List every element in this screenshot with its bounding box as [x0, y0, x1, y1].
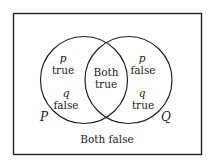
left-region-val2: false: [53, 99, 78, 111]
right-region-val1: false: [130, 64, 155, 76]
set-label-p: P: [39, 110, 49, 124]
left-region-val1: true: [52, 64, 74, 76]
set-label-q: Q: [161, 110, 171, 124]
right-region-val2: true: [132, 99, 154, 111]
right-region-var2: q: [139, 87, 146, 99]
left-region-var1: p: [60, 52, 67, 64]
venn-diagram: p true q false Both true p false q true …: [0, 0, 213, 164]
intersection-line2: true: [95, 78, 117, 90]
left-region-var2: q: [63, 87, 70, 99]
outside-region-label: Both false: [80, 133, 133, 145]
intersection-line1: Both: [93, 66, 118, 78]
right-region-var1: p: [139, 52, 146, 64]
